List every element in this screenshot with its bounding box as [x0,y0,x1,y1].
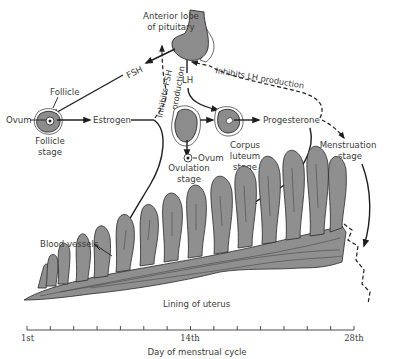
day-axis [27,326,354,330]
label-follicle-stage-1: Follicle [35,136,64,146]
corpus-luteum [215,107,243,136]
menstrual-cycle-diagram: Anterior lobe of pituitary FSH LH Inhibi… [0,0,394,359]
label-ovum-ovulation: Ovum [198,153,224,163]
label-inhibits-lh: Inhibits LH production [215,65,305,90]
label-blood-vessels: Blood vessels [40,239,99,249]
label-ovulation-stage-1: Ovulation [168,163,209,173]
axis-ticks [27,326,354,330]
label-menstruation-1: Menstruation [320,140,377,150]
axis-label-start: 1st [21,333,35,343]
progesterone-to-menstruation-arrow [322,120,344,138]
label-follicle-stage-2: stage [38,147,62,157]
label-estrogen: Estrogen [93,115,131,125]
label-corpus-luteum-1: Corpus [230,140,261,150]
axis-label-mid: 14th [180,333,200,343]
axis-title: Day of menstrual cycle [147,347,246,357]
follicle [34,109,62,135]
label-corpus-luteum-2: luteum [230,151,260,161]
label-fsh: FSH [125,64,144,80]
label-lining-of-uterus: Lining of uterus [163,299,231,309]
label-pituitary-1: Anterior lobe [143,11,199,21]
label-progesterone: Progesterone [263,115,320,125]
ovulation-ovary [172,106,201,146]
label-pituitary-2: of pituitary [147,22,194,32]
label-ovum-left: Ovum [6,115,32,125]
label-ovulation-stage-2: stage [177,174,201,184]
fsh-arrow [146,49,175,63]
axis-label-end: 28th [344,333,364,343]
label-follicle: Follicle [50,87,79,97]
lh-arrow [188,88,218,110]
